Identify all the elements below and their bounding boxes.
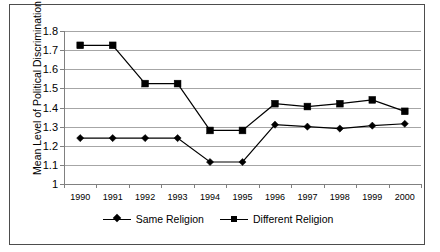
y-axis-tick-label: 1.5 xyxy=(43,83,58,94)
legend-label-different-religion: Different Religion xyxy=(253,213,333,225)
x-axis-tick-label: 1998 xyxy=(330,192,350,203)
chart-legend: Same Religion Different Religion xyxy=(10,211,426,227)
legend-item-different-religion: Different Religion xyxy=(220,213,333,225)
x-axis-tick xyxy=(259,184,260,188)
x-axis-tick-label: 1997 xyxy=(297,192,317,203)
x-axis-tick-label: 1996 xyxy=(265,192,285,203)
square-marker-icon xyxy=(220,214,248,224)
data-point-diamond xyxy=(109,135,116,142)
data-point-diamond xyxy=(336,125,343,132)
x-axis-tick xyxy=(96,184,97,188)
x-axis-tick xyxy=(161,184,162,188)
legend-label-same-religion: Same Religion xyxy=(136,213,204,225)
x-axis-tick xyxy=(291,184,292,188)
data-point-square xyxy=(272,100,279,107)
data-point-square xyxy=(174,80,181,87)
y-axis-tick-label: 1.2 xyxy=(43,140,58,151)
data-point-square xyxy=(369,96,376,103)
x-axis-tick xyxy=(226,184,227,188)
diamond-marker-icon xyxy=(103,214,131,224)
y-axis-tick-label: 1.1 xyxy=(43,159,58,170)
y-axis-tick-label: 1.8 xyxy=(43,26,58,37)
chart-frame: Mean Level of Political Discrimination 1… xyxy=(9,4,425,245)
x-axis-tick-label: 1999 xyxy=(362,192,382,203)
data-point-diamond xyxy=(304,123,311,130)
x-axis-tick-label: 1990 xyxy=(70,192,90,203)
series-different-religion xyxy=(77,42,408,134)
x-axis-tick xyxy=(421,184,422,188)
x-axis-tick-label: 1993 xyxy=(168,192,188,203)
x-axis-tick xyxy=(324,184,325,188)
x-axis-tick-label: 1991 xyxy=(103,192,123,203)
x-axis-tick-label: 1995 xyxy=(232,192,252,203)
legend-item-same-religion: Same Religion xyxy=(103,213,204,225)
x-axis-tick xyxy=(356,184,357,188)
series-layer xyxy=(64,31,421,184)
y-axis-tick-label: 1.4 xyxy=(43,102,58,113)
data-point-diamond xyxy=(369,122,376,129)
data-point-square xyxy=(336,100,343,107)
x-axis-tick xyxy=(64,184,65,188)
data-point-square xyxy=(77,42,84,49)
y-axis-tick-label: 1.6 xyxy=(43,64,58,75)
y-axis-tick-label: 1 xyxy=(52,179,58,190)
x-axis-tick-label: 1994 xyxy=(200,192,220,203)
x-axis-tick xyxy=(194,184,195,188)
data-point-square xyxy=(207,127,214,134)
y-axis-tick-label: 1.3 xyxy=(43,121,58,132)
data-point-square xyxy=(401,108,408,115)
x-axis-tick-label: 1992 xyxy=(135,192,155,203)
x-axis-tick xyxy=(129,184,130,188)
y-axis-tick-label: 1.7 xyxy=(43,45,58,56)
x-axis-tick-label: 2000 xyxy=(395,192,415,203)
x-axis-line xyxy=(64,184,421,185)
data-point-diamond xyxy=(142,135,149,142)
data-point-square xyxy=(304,103,311,110)
data-point-square xyxy=(239,127,246,134)
plot-area: 11.11.21.31.41.51.61.71.8 19901991199219… xyxy=(64,31,421,184)
data-point-square xyxy=(109,42,116,49)
data-point-diamond xyxy=(77,135,84,142)
data-point-diamond xyxy=(401,120,408,127)
data-point-square xyxy=(142,80,149,87)
x-axis-tick xyxy=(389,184,390,188)
series-line xyxy=(80,45,405,130)
